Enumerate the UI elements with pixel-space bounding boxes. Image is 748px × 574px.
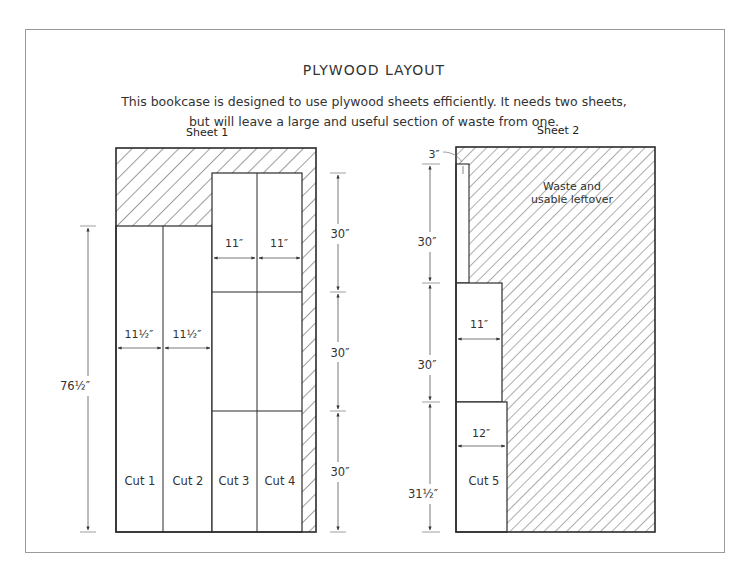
- dim-cut4-width: 11″: [270, 237, 288, 250]
- cut1-label: Cut 1: [125, 474, 156, 488]
- dim-sheet2-mid-height: 30″: [418, 358, 438, 372]
- dim-sheet2-top-height: 30″: [418, 235, 438, 249]
- cut3-label: Cut 3: [219, 474, 250, 488]
- dim-sheet1-right-bottom: 30″: [331, 465, 351, 479]
- waste-label-line2: usable leftover: [531, 193, 614, 206]
- dim-sheet2-strip-width: 3″: [428, 148, 439, 161]
- sheet2-top-strip: [456, 164, 469, 283]
- cut5-label: Cut 5: [469, 474, 500, 488]
- sheet1: 11″ 11″ 11½″ 11½″ Cut 1 Cut 2 Cut 3 Cut …: [60, 148, 350, 532]
- dim-sheet2-bottom-height: 31½″: [408, 487, 439, 501]
- dim-cut1-width: 11½″: [125, 328, 154, 341]
- dim-sheet2-mid-width: 11″: [470, 318, 488, 331]
- sheet2: Waste and usable leftover 3″ 11″ 12″ Cut…: [408, 147, 655, 532]
- cut4-label: Cut 4: [265, 474, 296, 488]
- dim-sheet2-bottom-width: 12″: [472, 427, 490, 440]
- dim-sheet1-right-top: 30″: [331, 227, 351, 241]
- sheet2-mid-piece: [456, 283, 502, 402]
- dim-sheet1-left-height: 76½″: [60, 379, 91, 393]
- plywood-layout-drawing: 11″ 11″ 11½″ 11½″ Cut 1 Cut 2 Cut 3 Cut …: [0, 0, 748, 574]
- sheet2-cut5: [456, 402, 507, 532]
- dim-cut2-width: 11½″: [173, 328, 202, 341]
- dim-sheet1-right-mid: 30″: [331, 346, 351, 360]
- cut2-label: Cut 2: [173, 474, 204, 488]
- dim-cut3-width: 11″: [225, 237, 243, 250]
- waste-label-line1: Waste and: [543, 180, 601, 193]
